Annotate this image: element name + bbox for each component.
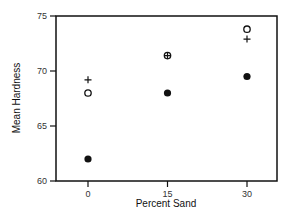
- open-circle-marker: [85, 90, 91, 96]
- y-axis-label: Mean Hardness: [11, 63, 22, 134]
- y-tick-label: 65: [37, 121, 47, 131]
- open-circle-marker: [244, 26, 250, 32]
- filled-circle-marker: [164, 89, 171, 96]
- plus-marker: [85, 76, 92, 83]
- x-axis-label: Percent Sand: [136, 198, 197, 209]
- data-points: [84, 26, 250, 163]
- x-tick-label: 0: [85, 189, 90, 199]
- x-tick-label: 30: [242, 189, 252, 199]
- scatter-chart: 60657075 01530 Percent Sand Mean Hardnes…: [0, 0, 294, 215]
- x-axis: 01530: [85, 181, 252, 199]
- filled-circle-marker: [243, 73, 250, 80]
- y-tick-label: 75: [37, 11, 47, 21]
- y-tick-label: 70: [37, 66, 47, 76]
- y-tick-label: 60: [37, 176, 47, 186]
- plus-marker: [244, 36, 251, 43]
- filled-circle-marker: [84, 155, 91, 162]
- y-axis: 60657075: [37, 11, 56, 186]
